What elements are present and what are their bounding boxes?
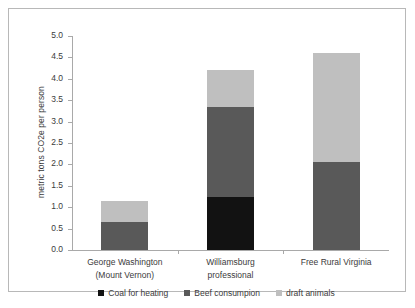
legend-item[interactable]: Beef consumpion [184, 288, 260, 298]
y-axis-tick-label: 3.5 [51, 94, 63, 104]
y-axis-tick-label: 4.0 [51, 73, 63, 83]
legend-item[interactable]: Coal for heating [98, 288, 168, 298]
x-axis-line [72, 250, 389, 251]
legend-item[interactable]: draft animals [276, 288, 335, 298]
x-axis-category-label: George Washington(Mount Vernon) [72, 256, 178, 282]
y-axis-tick-label: 1.0 [51, 201, 63, 211]
x-axis-tick-mark [283, 250, 284, 254]
bar-segment[interactable] [313, 53, 360, 162]
y-axis-tick-label: 0.5 [51, 223, 63, 233]
bar-segment[interactable] [101, 222, 148, 250]
bar-stack [207, 70, 254, 250]
bar-segment[interactable] [313, 162, 360, 250]
chart-page: metric tons CO2e per person 5.04.54.03.5… [0, 0, 415, 308]
bar-stack [101, 201, 148, 250]
y-axis-tick-label: 5.0 [51, 30, 63, 40]
y-axis-title: metric tons CO2e per person [36, 47, 46, 237]
y-axis-tick-label: 0.0 [51, 244, 63, 254]
legend-swatch-icon [276, 290, 282, 296]
x-axis-category-label: Free Rural Virginia [283, 256, 389, 269]
x-axis-category-label-line: professional [178, 269, 284, 282]
y-axis-tick-label: 4.5 [51, 51, 63, 61]
bar-group[interactable] [101, 36, 148, 250]
bar-stack [313, 53, 360, 250]
bar-segment[interactable] [207, 107, 254, 197]
y-axis-tick-label: 2.0 [51, 158, 63, 168]
legend-swatch-icon [98, 290, 104, 296]
chart-legend: Coal for heatingBeef consumpiondraft ani… [9, 288, 415, 298]
y-axis-tick-mark [68, 250, 72, 251]
legend-swatch-icon [184, 290, 190, 296]
x-axis-category-label: Williamsburgprofessional [178, 256, 284, 282]
x-axis-category-label-line: Williamsburg [178, 256, 284, 269]
x-axis-category-label-line: George Washington [72, 256, 178, 269]
x-axis-category-label-line: Free Rural Virginia [283, 256, 389, 269]
bar-segment[interactable] [101, 201, 148, 222]
bar-group[interactable] [313, 36, 360, 250]
plot-area [72, 36, 389, 250]
x-axis-tick-mark [178, 250, 179, 254]
y-axis-tick-label: 1.5 [51, 180, 63, 190]
legend-item-label: Beef consumpion [194, 288, 260, 298]
bar-group[interactable] [207, 36, 254, 250]
y-axis-tick-label: 3.0 [51, 116, 63, 126]
y-axis-tick-label: 2.5 [51, 137, 63, 147]
legend-item-label: draft animals [286, 288, 335, 298]
bar-segment[interactable] [207, 197, 254, 251]
chart-frame: metric tons CO2e per person 5.04.54.03.5… [8, 8, 406, 292]
legend-item-label: Coal for heating [108, 288, 168, 298]
bar-segment[interactable] [207, 70, 254, 106]
x-axis-category-label-line: (Mount Vernon) [72, 269, 178, 282]
